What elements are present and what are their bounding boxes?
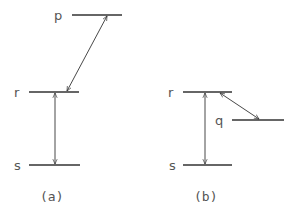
- level-r-label: r: [168, 85, 174, 100]
- level-s-label: s: [169, 158, 176, 173]
- level-q-label: q: [215, 113, 223, 128]
- energy-level-diagram: p r s (a) r q s (b): [0, 0, 300, 218]
- transition-r-p-arrow: [67, 16, 107, 91]
- level-p-label: p: [54, 8, 62, 23]
- panel-a: p r s (a): [14, 8, 122, 204]
- panel-b-caption: (b): [194, 189, 217, 204]
- panel-a-caption: (a): [40, 189, 63, 204]
- level-r-label: r: [14, 85, 20, 100]
- level-s-label: s: [14, 158, 21, 173]
- transition-r-q-arrow: [220, 93, 259, 119]
- panel-b: r q s (b): [168, 85, 284, 204]
